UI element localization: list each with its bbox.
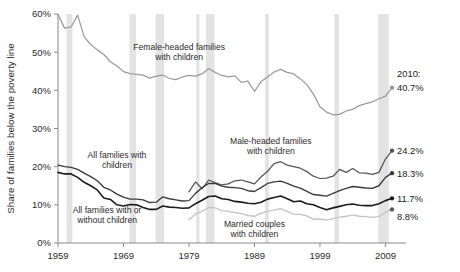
recession-band — [378, 14, 388, 243]
end-value-label: 24.2% — [397, 145, 424, 156]
y-axis-title-group: Share of families below the poverty line — [5, 43, 16, 214]
series-annotation-label: with children — [246, 146, 295, 156]
series-end-dot — [390, 196, 394, 200]
series-end-dot — [390, 148, 394, 152]
recession-band — [67, 14, 73, 243]
y-tick-label: 20% — [32, 161, 52, 172]
series-end-dot — [390, 85, 394, 89]
series-annotation-label: without children — [76, 215, 137, 225]
x-tick-label: 1989 — [244, 250, 265, 261]
series-annotation-label: All families with — [88, 150, 147, 160]
x-tick-label: 1999 — [309, 250, 330, 261]
y-tick-label: 10% — [32, 199, 52, 210]
series-line — [58, 14, 392, 114]
y-tick-label: 40% — [32, 85, 52, 96]
series-annotation-label: with children — [230, 229, 279, 239]
end-value-labels-group: 2010:40.7%24.2%18.3%11.7%8.8% — [397, 68, 424, 222]
series-annotation-label: Male-headed families — [230, 136, 312, 146]
chart-canvas: 0%10%20%30%40%50%60%19591969197919891999… — [0, 0, 460, 272]
end-value-label: 11.7% — [397, 193, 423, 204]
series-annotation-label: children — [102, 160, 132, 170]
series-annotation-label: Married couples — [224, 219, 285, 229]
end-value-label: 18.3% — [397, 168, 424, 179]
end-dots-group — [390, 85, 394, 211]
series-end-dot — [390, 171, 394, 175]
poverty-line-chart: 0%10%20%30%40%50%60%19591969197919891999… — [0, 0, 460, 272]
series-annotation-label: Female-headed families — [133, 42, 225, 52]
y-tick-label: 30% — [32, 123, 52, 134]
y-axis-title: Share of families below the poverty line — [5, 43, 16, 214]
series-annotation-label: with children — [154, 52, 203, 62]
series-line — [189, 208, 392, 221]
series-annotation-label: All families with or — [73, 205, 142, 215]
end-value-label: 40.7% — [397, 82, 424, 93]
recession-band — [334, 14, 339, 243]
end-value-label: 8.8% — [397, 211, 418, 222]
x-tick-label: 1959 — [47, 250, 68, 261]
y-tick-label: 50% — [32, 47, 52, 58]
x-tick-label: 1969 — [113, 250, 134, 261]
series-line — [58, 172, 392, 209]
x-tick-label: 1979 — [178, 250, 199, 261]
y-tick-label: 0% — [37, 237, 51, 248]
recession-band — [265, 14, 269, 243]
end-year-label: 2010: — [397, 68, 420, 79]
y-tick-label: 60% — [32, 8, 52, 19]
x-tick-label: 2009 — [375, 250, 396, 261]
series-end-dot — [390, 207, 394, 211]
